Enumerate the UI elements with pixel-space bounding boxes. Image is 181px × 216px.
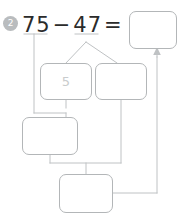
equation-expression: 75−47= (22, 12, 125, 38)
connector-branch-left (66, 42, 86, 63)
decomposition-box-left[interactable]: 5 (40, 63, 92, 100)
final-step-box[interactable] (59, 174, 113, 213)
equation-subtrahend: 47 (73, 13, 102, 37)
equation-minuend: 75 (22, 13, 51, 37)
math-problem-widget: 2 75−47= 5 (0, 0, 181, 216)
problem-number-badge: 2 (3, 16, 18, 31)
equation-operator: − (51, 13, 74, 37)
intermediate-step-box[interactable] (22, 117, 78, 155)
connector-branch-right (86, 42, 117, 63)
equation-equals-sign: = (102, 13, 125, 37)
decomposition-box-right[interactable] (95, 63, 147, 100)
answer-input-box[interactable] (129, 11, 177, 49)
